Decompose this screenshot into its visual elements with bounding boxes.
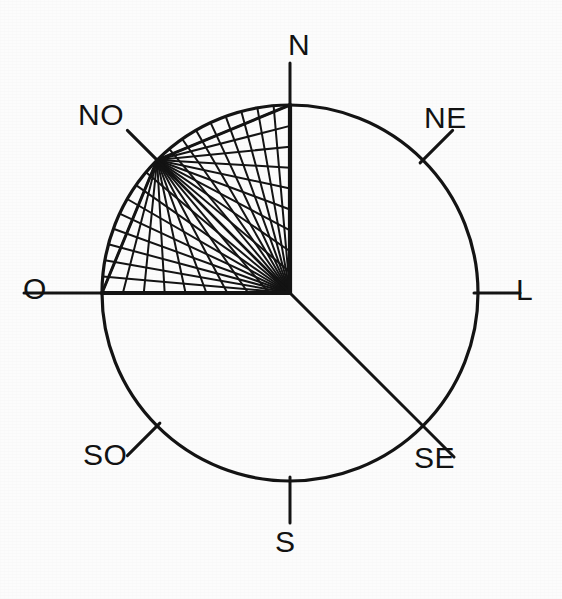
northwest-ray [157,160,290,230]
direction-label-northwest: NO [78,100,124,130]
northwest-ray [157,160,227,293]
direction-label-south: S [275,527,296,557]
direction-label-southwest: SO [83,440,127,470]
direction-label-north: N [288,30,310,60]
direction-label-northeast: NE [424,103,467,133]
direction-tick-ne [420,130,453,163]
direction-tick-se [290,293,454,457]
direction-tick-no [127,130,160,163]
direction-label-west: O [23,274,47,304]
direction-tick-so [127,423,160,456]
direction-label-southeast: SE [414,443,455,473]
compass-diagram [0,0,562,599]
direction-label-east: L [516,275,533,305]
compass-figure: N NE L SE S SO O NO [0,0,562,599]
